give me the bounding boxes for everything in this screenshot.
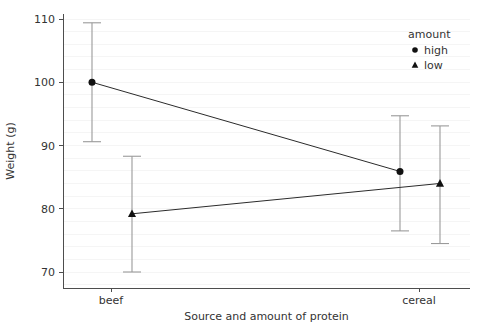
gridlines-group: [63, 19, 470, 285]
series-line-low: [132, 183, 440, 213]
y-tick-label: 90: [41, 140, 55, 153]
legend-title: amount: [408, 28, 451, 41]
legend-glyph-high: [412, 47, 418, 53]
marker-high-cereal: [397, 168, 404, 175]
y-axis-ticks: 708090100110: [34, 13, 63, 279]
legend: amounthighlow: [408, 28, 451, 72]
x-tick-label: cereal: [402, 294, 436, 307]
x-tick-label: beef: [99, 294, 125, 307]
x-axis-ticks: beefcereal: [99, 288, 436, 307]
series-lines-group: [92, 82, 440, 214]
legend-label-high: high: [424, 44, 448, 57]
error-bars-group: [83, 23, 449, 272]
legend-label-low: low: [424, 59, 443, 72]
marker-high-beef: [89, 79, 96, 86]
interaction-plot-figure: 708090100110beefcerealSource and amount …: [0, 0, 489, 329]
y-tick-label: 70: [41, 266, 55, 279]
legend-glyph-low: [412, 61, 419, 67]
chart-canvas: 708090100110beefcerealSource and amount …: [0, 0, 489, 329]
x-axis-title: Source and amount of protein: [184, 310, 349, 323]
y-tick-label: 80: [41, 203, 55, 216]
marker-low-cereal: [436, 179, 444, 187]
axis-titles-group: Source and amount of proteinWeight (g): [4, 122, 349, 323]
y-tick-label: 100: [34, 76, 55, 89]
y-axis-title: Weight (g): [4, 122, 17, 179]
y-tick-label: 110: [34, 13, 55, 26]
